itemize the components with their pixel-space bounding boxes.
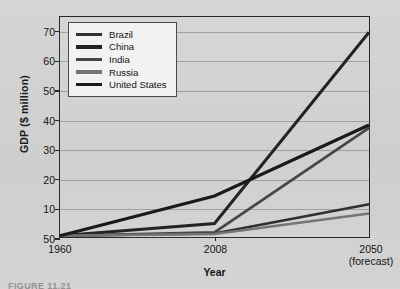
y-axis-tick-label: 60 [21,55,55,67]
legend-item-brazil: Brazil [76,28,167,41]
legend-swatch [76,83,102,86]
x-axis-tick-label-year: 2050 [349,243,393,255]
legend-swatch [76,45,102,48]
chart-legend: BrazilChinaIndiaRussiaUnited States [68,22,177,97]
x-axis-tick-mark [215,237,216,241]
legend-item-russia: Russia [76,66,167,79]
y-axis-tick-label: 70 [21,26,55,38]
legend-swatch [76,33,102,36]
legend-item-united-states: United States [76,78,167,91]
legend-label: United States [109,79,167,90]
x-axis-tick-label-year: 1960 [48,243,71,255]
x-axis-tick-label: 1960 [48,243,71,255]
legend-swatch [76,70,102,73]
legend-swatch [76,58,102,61]
x-axis-tick-label: 2008 [204,243,227,255]
legend-label: India [109,54,130,65]
y-axis-tick-label: 10 [21,203,55,215]
legend-item-india: India [76,53,167,66]
x-axis-tick-label: 2050(forecast) [349,243,393,267]
y-axis-tick-label: 50 [21,85,55,97]
x-axis-title: Year [59,266,370,278]
legend-label: China [109,41,134,52]
gdp-line-chart-figure: GDP ($ million) 5010203040506070 1960200… [0,0,400,289]
y-axis-tick-label: 30 [21,144,55,156]
y-axis-tick-mark [55,238,60,239]
legend-item-china: China [76,41,167,54]
y-axis-tick-label: 20 [21,174,55,186]
y-axis-tick-label: 40 [21,115,55,127]
x-axis-tick-label-year: 2008 [204,243,227,255]
legend-label: Russia [109,67,138,78]
figure-caption: FIGURE 11.21 [8,281,71,289]
legend-label: Brazil [109,29,133,40]
